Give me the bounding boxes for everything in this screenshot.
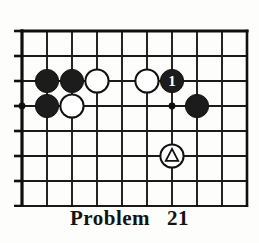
black-stone-d[interactable] xyxy=(185,94,208,117)
white-stone-a[interactable] xyxy=(85,69,108,92)
black-stone-c[interactable] xyxy=(35,94,58,117)
go-board-canvas[interactable]: 1 xyxy=(14,23,250,207)
diagram-caption: Problem21 xyxy=(0,206,259,231)
white-stone-b[interactable] xyxy=(135,69,158,92)
black-stone-b[interactable] xyxy=(60,69,83,92)
black-stone-disc[interactable] xyxy=(60,69,83,92)
black-stone-disc[interactable] xyxy=(35,94,58,117)
white-stone-c[interactable] xyxy=(60,94,83,117)
white-stone-disc[interactable] xyxy=(85,69,108,92)
black-stone-disc[interactable] xyxy=(35,69,58,92)
caption-label: Problem xyxy=(70,206,150,231)
black-stone-disc[interactable] xyxy=(185,94,208,117)
black-move-1[interactable]: 1 xyxy=(160,69,183,92)
white-stone-disc[interactable] xyxy=(60,94,83,117)
white-triangle-stone[interactable] xyxy=(160,144,183,167)
black-stone-a[interactable] xyxy=(35,69,58,92)
problem-diagram-page: 1 Problem21 xyxy=(0,0,259,243)
star-point-center xyxy=(169,103,176,110)
board-grid xyxy=(15,31,247,207)
caption-number: 21 xyxy=(167,206,189,231)
go-board[interactable]: 1 xyxy=(14,23,250,207)
stone-move-number: 1 xyxy=(168,73,176,89)
white-stone-disc[interactable] xyxy=(135,69,158,92)
star-point-left xyxy=(19,103,26,110)
